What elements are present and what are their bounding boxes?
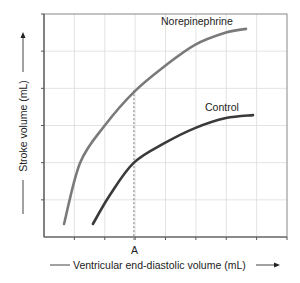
control-label: Control — [205, 101, 239, 113]
norepinephrine-label: Norepinephrine — [161, 15, 233, 27]
x-axis-arrow-icon — [274, 263, 280, 268]
point-a-label: A — [131, 244, 138, 256]
series-group — [64, 29, 253, 224]
axes — [41, 14, 287, 240]
grid-lines — [44, 14, 287, 237]
series-line-norepinephrine — [64, 29, 246, 224]
x-axis-title: Ventricular end-diastolic volume (mL) — [73, 259, 246, 271]
y-axis-arrow-icon — [21, 32, 26, 38]
series-line-control — [93, 115, 253, 224]
stroke-volume-chart: Norepinephrine Control A Ventricular end… — [0, 0, 300, 283]
y-axis-title: Stroke volume (mL) — [17, 80, 29, 172]
